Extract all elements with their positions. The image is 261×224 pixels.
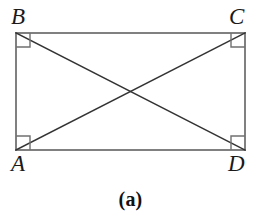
right-angle-marker-c bbox=[231, 33, 245, 47]
right-angle-marker-d bbox=[231, 136, 245, 150]
vertex-label-d: D bbox=[228, 152, 245, 175]
figure-caption: (a) bbox=[0, 188, 261, 210]
right-angle-marker-a bbox=[16, 136, 30, 150]
vertex-label-a: A bbox=[11, 152, 25, 175]
vertex-label-c: C bbox=[229, 5, 244, 28]
right-angle-marker-b bbox=[16, 33, 30, 47]
vertex-label-b: B bbox=[11, 5, 25, 28]
figure-container: B C A D (a) bbox=[0, 0, 261, 224]
